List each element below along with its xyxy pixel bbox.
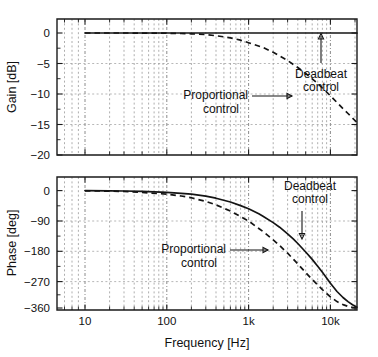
gain-tick-label-0: 0 bbox=[44, 27, 50, 39]
phase-tick-label-m270: −270 bbox=[24, 276, 50, 288]
phase-annotation-proportional-line1: Proportional bbox=[161, 242, 226, 256]
gain-annotation-proportional-line2: control bbox=[203, 102, 239, 116]
phase-tick-label-0: 0 bbox=[44, 185, 50, 197]
gain-annotation-deadbeat-line1: Deadbeat bbox=[295, 67, 348, 81]
phase-tick-label-m90: −90 bbox=[30, 215, 50, 227]
phase-annotation-deadbeat: Deadbeat control bbox=[284, 179, 337, 239]
phase-tick-label-m180: −180 bbox=[24, 245, 50, 257]
x-tick-label-1k: 1k bbox=[243, 315, 255, 327]
gain-tick-label-m5: −5 bbox=[37, 58, 50, 70]
x-tick-label-100: 100 bbox=[157, 315, 176, 327]
gain-panel: 0 −5 −10 −15 −20 Gain [dB] Proportional … bbox=[5, 19, 357, 161]
gain-tick-label-m15: −15 bbox=[30, 119, 50, 131]
gain-annotation-proportional: Proportional control bbox=[183, 88, 292, 116]
gain-tick-label-m10: −10 bbox=[30, 88, 50, 100]
gain-annotation-deadbeat-line2: control bbox=[303, 80, 339, 94]
phase-axis-label: Phase [deg] bbox=[5, 210, 19, 277]
phase-annotation-deadbeat-line2: control bbox=[292, 192, 328, 206]
x-tick-label-10: 10 bbox=[79, 315, 92, 327]
phase-annotation-proportional: Proportional control bbox=[161, 242, 268, 270]
x-axis-label: Frequency [Hz] bbox=[165, 336, 250, 350]
gain-axis-label: Gain [dB] bbox=[5, 61, 19, 113]
phase-annotation-proportional-line2: control bbox=[181, 256, 217, 270]
gain-tick-label-m20: −20 bbox=[30, 149, 50, 161]
phase-tick-label-m360: −360 bbox=[24, 302, 50, 314]
phase-annotation-deadbeat-line1: Deadbeat bbox=[284, 179, 337, 193]
bode-plot-figure: 0 −5 −10 −15 −20 Gain [dB] Proportional … bbox=[0, 0, 378, 357]
x-tick-label-10k: 10k bbox=[321, 315, 340, 327]
phase-panel: 0 −90 −180 −270 −360 Phase [deg] Proport… bbox=[5, 177, 357, 350]
gain-annotation-proportional-line1: Proportional bbox=[183, 88, 248, 102]
bode-plot-svg: 0 −5 −10 −15 −20 Gain [dB] Proportional … bbox=[0, 0, 378, 357]
